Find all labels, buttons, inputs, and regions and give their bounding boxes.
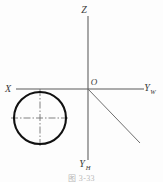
yh-axis-label-group: Y H — [79, 158, 90, 171]
axis-lines — [16, 16, 144, 160]
yw-axis-subscript: W — [150, 88, 156, 95]
figure-caption: 图 3-33 — [0, 174, 163, 182]
origin-label: O — [91, 77, 98, 87]
coordinate-projection-diagram: Z X Y W Y H O — [0, 0, 163, 182]
oy-bisector-line — [88, 89, 140, 143]
x-axis-label: X — [4, 83, 12, 94]
z-axis-label: Z — [81, 4, 87, 15]
circle-centerlines — [11, 89, 69, 147]
yh-axis-subscript: H — [85, 164, 91, 171]
yw-axis-label-group: Y W — [144, 82, 156, 95]
figure-container: Z X Y W Y H O 图 3-33 — [0, 0, 163, 182]
